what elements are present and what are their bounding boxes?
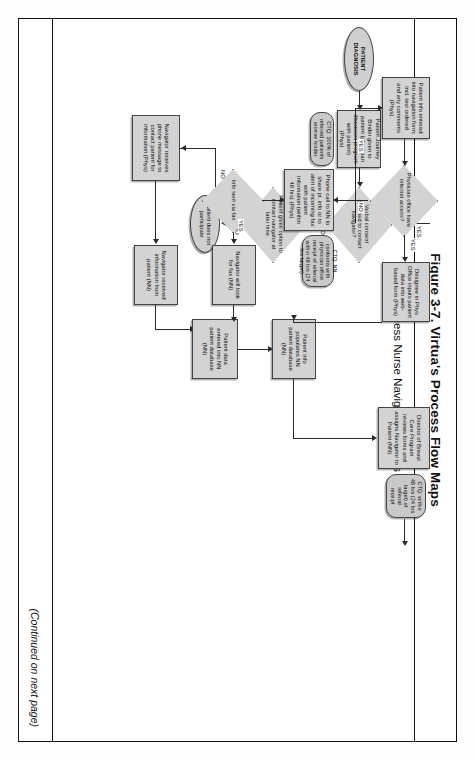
node-patient-diagnosis-label: PATIENT DIAGNOSIS bbox=[352, 30, 366, 88]
edge-label-internet-no: NO bbox=[358, 202, 364, 213]
arrow-into-infoentered bbox=[378, 105, 383, 111]
edge-label-top-yes: YES bbox=[358, 139, 364, 153]
node-info-sent-via-fax-label: Info sent via fax bbox=[204, 169, 264, 231]
arrow-director-continue bbox=[402, 541, 408, 546]
node-navigator-received-info-label: Navigator received information from pati… bbox=[145, 249, 167, 301]
node-physician-internet: Physician office have internet access? bbox=[372, 165, 438, 235]
figure-sheet: Figure 3-7. Virtua's Process Flow Maps E… bbox=[18, 18, 457, 742]
node-phone-call-nn-label: Phone call to NN to share pt. info or to… bbox=[287, 173, 330, 227]
node-ctq-nn-conforms-label: CTQ: NN conforms with physician office r… bbox=[298, 239, 338, 283]
node-navigator-receives-msg-label: Navigator receives phone message to cont… bbox=[142, 119, 171, 177]
edge-received-to-data-entered bbox=[155, 305, 156, 329]
node-navigator-receives-msg: Navigator receives phone message to cont… bbox=[132, 115, 180, 181]
continued-note: (Continued on next page) bbox=[30, 609, 42, 728]
node-patient-info-entered-label: Patient info entered into navigation for… bbox=[388, 81, 424, 135]
node-ctq-binder-label: CTQ: 100% of referred patients receive b… bbox=[312, 116, 332, 162]
edge-received-up bbox=[155, 329, 190, 330]
node-ctq-nn-conforms: CTQ: NN conforms with physician office r… bbox=[302, 235, 334, 287]
node-ctq-director-label: CTQ: within 48 hrs (24 hrs target) of re… bbox=[389, 478, 423, 514]
node-info-sent-via-fax: Info sent via fax bbox=[204, 169, 264, 231]
edge-designee-down bbox=[294, 322, 382, 323]
edge-fax-no bbox=[262, 200, 280, 201]
node-designee-inputs-label: Designee in Phys Office inputs patient d… bbox=[392, 266, 421, 318]
edge-populates-to-director-h bbox=[293, 379, 294, 439]
arrow-designee-into-populates bbox=[291, 315, 297, 320]
node-patient-data-entered: Patient data entered into NN patient dat… bbox=[192, 319, 238, 379]
edge-internet-yes bbox=[404, 235, 405, 257]
flowchart-canvas: PATIENT DIAGNOSIS Patient Journey Binder… bbox=[51, 19, 386, 743]
arrow-populates-to-director bbox=[372, 435, 377, 441]
node-patient-info-populates-label: Patient info populates NN patient databa… bbox=[280, 323, 309, 375]
node-navigator-look-fax: Navigator will look for fax (NN) bbox=[212, 245, 256, 305]
continued-band: (Continued on next page) bbox=[19, 19, 53, 741]
node-patient-info-entered: Patient info entered into navigation for… bbox=[382, 77, 430, 139]
arrow-lookfax-to-dataentered bbox=[231, 317, 237, 322]
arrow-internet-no bbox=[333, 197, 338, 203]
node-patient-info-populates: Patient info populates NN patient databa… bbox=[272, 319, 316, 379]
arrow-infoentered-to-internet bbox=[402, 161, 408, 166]
edge-binder-to-consent bbox=[359, 168, 360, 182]
node-physician-internet-label: Physician office have internet access? bbox=[372, 165, 438, 235]
edge-nav-msg-to-received bbox=[155, 181, 156, 239]
edge-director-continue bbox=[404, 519, 405, 541]
node-patient-diagnosis: PATIENT DIAGNOSIS bbox=[344, 27, 374, 91]
arrow-fax-yes-in bbox=[231, 239, 237, 244]
node-ctq-director: CTQ: within 48 hrs (24 hrs target) of re… bbox=[386, 474, 426, 518]
rotated-figure-wrapper: Figure 3-7. Virtua's Process Flow Maps E… bbox=[0, 0, 475, 760]
edge-dataentered-up bbox=[238, 349, 268, 350]
edge-into-infoentered bbox=[356, 108, 378, 109]
edge-label-internet-yes: YES bbox=[410, 238, 416, 252]
node-phone-call-nn: Phone call to NN to share pt. info or to… bbox=[284, 169, 334, 231]
edge-diagnosis-to-binder bbox=[359, 91, 360, 105]
edge-label-fax-yes: YES bbox=[238, 219, 244, 233]
figure-title: Figure 3-7. Virtua's Process Flow Maps bbox=[428, 253, 443, 507]
arrow-nav-msg-to-received bbox=[153, 239, 159, 244]
edge-infoentered-to-internet bbox=[404, 139, 405, 161]
edge-populates-to-director bbox=[294, 438, 372, 439]
node-director-breast-care-label: Director of Breast Care Program reviews … bbox=[386, 411, 422, 465]
node-patient-data-entered-label: Patient data entered into NN patient dat… bbox=[201, 323, 230, 375]
arrow-left-down-to-nav bbox=[181, 145, 186, 151]
node-director-breast-care: Director of Breast Care Program reviews … bbox=[378, 407, 430, 469]
node-ctq-binder: CTQ: 100% of referred patients receive b… bbox=[310, 112, 334, 166]
node-navigator-look-fax-label: Navigator will look for fax (NN) bbox=[227, 249, 241, 301]
edge-internet-no bbox=[336, 200, 368, 201]
edge-into-infoentered-h bbox=[355, 108, 356, 223]
node-designee-inputs: Designee in Phys Office inputs patient d… bbox=[382, 262, 430, 322]
figure-page: Figure 3-7. Virtua's Process Flow Maps E… bbox=[0, 0, 475, 760]
node-navigator-received-info: Navigator received information from pati… bbox=[134, 245, 178, 305]
